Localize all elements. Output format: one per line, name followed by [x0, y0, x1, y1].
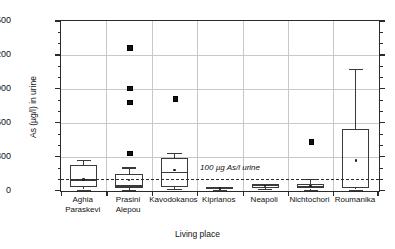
y-tick-major [55, 156, 61, 157]
gridline-horizontal [61, 55, 379, 56]
y-tick-minor [58, 145, 62, 146]
y-tick-minor [58, 168, 62, 169]
box [70, 165, 97, 187]
whisker-cap-lower [77, 190, 91, 191]
whisker-cap-upper [349, 69, 363, 70]
mean-marker [219, 187, 222, 190]
x-axis-title: Living place [0, 229, 395, 239]
reference-line-label: 100 µg As/l urine [200, 163, 260, 172]
y-tick-major-right [379, 20, 385, 21]
gridline-horizontal [61, 89, 379, 90]
whisker-cap-upper [167, 153, 181, 154]
y-tick-minor-right [379, 134, 383, 135]
outlier-point [173, 96, 178, 101]
whisker-cap-lower [122, 190, 136, 191]
y-tick-label: 1500 [0, 15, 11, 25]
chart-root: As (µg/l) in urine 100 µg As/l urine Agh… [0, 0, 395, 249]
y-tick-minor-right [379, 32, 383, 33]
y-tick-major [55, 88, 61, 89]
gridline-vertical [152, 21, 153, 191]
gridline-vertical [333, 21, 334, 191]
outlier-point [127, 45, 132, 50]
y-tick-minor [58, 134, 62, 135]
whisker-cap-lower [213, 190, 227, 191]
y-tick-major-right [379, 88, 385, 89]
median-line [161, 172, 188, 173]
gridline-vertical [288, 21, 289, 191]
x-category-label: Roumanika [312, 195, 395, 205]
mean-marker [355, 159, 358, 162]
gridline-vertical [106, 21, 107, 191]
y-tick-minor-right [379, 168, 383, 169]
y-tick-minor [58, 111, 62, 112]
plot-area: 100 µg As/l urine [60, 20, 380, 192]
reference-line [61, 179, 379, 180]
y-tick-major [55, 122, 61, 123]
gridline-horizontal [61, 123, 379, 124]
whisker-cap-lower [167, 189, 181, 190]
y-tick-label: 300 [0, 151, 11, 161]
y-tick-minor-right [379, 66, 383, 67]
y-tick-major-right [379, 156, 385, 157]
y-tick-label: 0 [0, 185, 11, 195]
median-line [342, 187, 369, 188]
whisker-cap-lower [258, 189, 272, 190]
y-tick-minor-right [379, 145, 383, 146]
y-tick-minor [58, 66, 62, 67]
y-tick-minor-right [379, 179, 383, 180]
median-line [115, 185, 142, 186]
x-category-label-line: Roumanika [312, 195, 395, 205]
gridline-vertical [197, 21, 198, 191]
gridline-horizontal [61, 157, 379, 158]
outlier-point [127, 100, 132, 105]
y-tick-minor-right [379, 43, 383, 44]
whisker-cap-lower [304, 190, 318, 191]
y-tick-major-right [379, 54, 385, 55]
y-tick-major [55, 20, 61, 21]
y-tick-major-right [379, 122, 385, 123]
y-tick-minor [58, 77, 62, 78]
whisker-cap-lower [349, 190, 363, 191]
y-tick-minor-right [379, 100, 383, 101]
y-tick-minor-right [379, 77, 383, 78]
whisker-cap-upper [77, 160, 91, 161]
y-tick-minor [58, 43, 62, 44]
y-tick-label: 900 [0, 83, 11, 93]
y-tick-minor-right [379, 111, 383, 112]
y-tick-label: 1200 [0, 49, 11, 59]
x-axis-category-labels: AghiaParaskeviPrasiniAlepouKavodokanosKi… [60, 195, 380, 225]
whisker-upper [355, 69, 356, 129]
y-tick-minor [58, 100, 62, 101]
y-tick-label: 600 [0, 117, 11, 127]
outlier-point [309, 139, 314, 144]
x-category-label-line: Alepou [85, 205, 171, 215]
whisker-cap-upper [122, 167, 136, 168]
y-tick-major [55, 54, 61, 55]
outlier-point [127, 86, 132, 91]
outlier-point [127, 151, 132, 156]
y-tick-minor [58, 32, 62, 33]
plot-inner: 100 µg As/l urine [61, 21, 379, 191]
y-axis-title: As (µg/l) in urine [28, 27, 38, 187]
y-tick-major-right [379, 190, 385, 191]
